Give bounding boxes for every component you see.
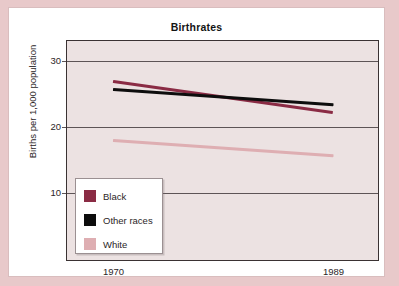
- legend-item-label: Other races: [103, 215, 153, 226]
- gridline-20: [67, 127, 378, 128]
- legend-item-label: Black: [103, 191, 126, 202]
- chart-screenshot: Birthrates Births per 1,000 population 1…: [0, 0, 399, 286]
- y-tick-label-10: 10: [35, 187, 61, 198]
- chart-card: Birthrates Births per 1,000 population 1…: [8, 7, 385, 277]
- gridline-30: [67, 61, 378, 62]
- y-tick-label-20: 20: [35, 121, 61, 132]
- y-axis-ticks: 102030: [31, 40, 61, 261]
- chart-legend: BlackOther racesWhite: [75, 178, 163, 254]
- series-line-other-races: [113, 88, 333, 106]
- legend-item-black: Black: [84, 190, 126, 202]
- x-tick-label-1989: 1989: [323, 266, 344, 277]
- legend-swatch-icon: [84, 238, 96, 250]
- legend-swatch-icon: [84, 214, 96, 226]
- y-tick-label-30: 30: [35, 55, 61, 66]
- legend-item-white: White: [84, 238, 127, 250]
- series-line-white: [113, 139, 333, 157]
- legend-item-label: White: [103, 239, 127, 250]
- legend-item-other-races: Other races: [84, 214, 153, 226]
- x-tick-label-1970: 1970: [103, 266, 124, 277]
- page-title: Birthrates: [9, 21, 384, 33]
- legend-swatch-icon: [84, 190, 96, 202]
